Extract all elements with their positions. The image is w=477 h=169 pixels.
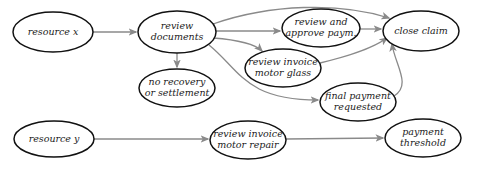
node-label: threshold	[400, 137, 446, 148]
node-close-claim: close claim	[383, 11, 459, 51]
node-review-approve-paym: review andapprove paym.	[282, 9, 360, 47]
node-label: payment	[402, 126, 444, 137]
node-label: review invoice	[213, 128, 283, 139]
node-label: review invoice	[248, 56, 318, 67]
node-label: documents	[151, 31, 204, 42]
node-label: or settlement	[145, 87, 210, 98]
edge-final-payment-requested-to-close-claim	[392, 44, 402, 96]
node-label: motor glass	[255, 67, 311, 78]
node-label: close claim	[394, 25, 448, 36]
node-review-invoice-motor-glass: review invoicemotor glass	[245, 49, 321, 87]
node-label: review	[161, 20, 193, 31]
node-review-invoice-motor-repair: review invoicemotor repair	[210, 121, 286, 159]
node-label: resource x	[28, 26, 79, 37]
node-review-documents: reviewdocuments	[138, 11, 216, 53]
node-label: approve paym.	[285, 27, 356, 38]
node-label: resource y	[29, 133, 80, 144]
process-diagram: resource xreviewdocumentsreview andappro…	[0, 0, 477, 169]
node-resource-y: resource y	[14, 121, 94, 157]
node-resource-x: resource x	[13, 12, 93, 52]
node-final-payment-requested: final paymentrequested	[320, 83, 396, 121]
node-label: requested	[334, 101, 382, 112]
node-label: review and	[294, 16, 347, 27]
node-label: no recovery	[149, 76, 207, 87]
node-payment-threshold: paymentthreshold	[385, 119, 461, 157]
node-no-recovery: no recoveryor settlement	[139, 69, 215, 107]
node-label: motor repair	[217, 139, 280, 150]
node-label: final payment	[324, 90, 391, 101]
edge-review-documents-to-review-invoice-motor-glass	[213, 38, 262, 51]
edge-review-invoice-motor-repair-to-payment-threshold	[286, 138, 383, 139]
